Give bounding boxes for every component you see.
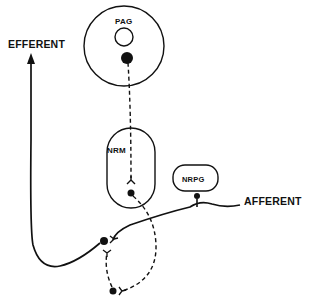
pag-label: PAG — [115, 17, 132, 26]
nrm-descending-dashed-axon — [122, 196, 156, 291]
efferent-neuron-body — [100, 237, 108, 245]
interneuron-body — [110, 288, 117, 295]
afferent-label: AFFERENT — [244, 195, 302, 207]
pag-to-nrm-dashed-axon — [128, 63, 131, 178]
nrm-label: NRM — [107, 146, 126, 155]
nrpg-neuron-body — [194, 193, 200, 199]
interneuron-synapse-icon — [103, 250, 111, 257]
nrm-neuron-body — [128, 190, 135, 197]
interneuron-dashed-axon — [106, 252, 112, 287]
efferent-label: EFFERENT — [8, 38, 65, 50]
nrm-synapse-icon — [127, 176, 135, 184]
pag-inner-open-circle — [115, 28, 133, 46]
efferent-arrowhead-icon — [27, 53, 35, 64]
pain-modulation-diagram: EFFERENT AFFERENT PAG NRM NRPG — [0, 0, 311, 302]
pag-neuron-body — [121, 52, 133, 64]
bottom-synapse-icon — [119, 287, 126, 295]
nrpg-label: NRPG — [182, 175, 204, 184]
efferent-axon — [31, 62, 100, 267]
